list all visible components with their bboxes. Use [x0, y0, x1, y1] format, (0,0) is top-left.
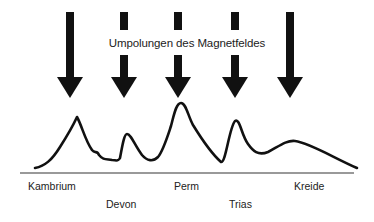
period-label-perm: Perm — [174, 180, 199, 192]
period-label-kreide: Kreide — [294, 180, 324, 192]
magnetic-reversal-diagram: Umpolungen des Magnetfeldes Kambrium Dev… — [0, 0, 374, 222]
period-label-trias: Trias — [229, 198, 252, 210]
arrow-down-icon — [277, 12, 303, 98]
period-label-kambrium: Kambrium — [28, 180, 76, 192]
arrow-down-icon — [57, 12, 83, 98]
period-label-devon: Devon — [106, 198, 136, 210]
diagram-title-text: Umpolungen des Magnetfeldes — [107, 37, 268, 49]
diagram-title: Umpolungen des Magnetfeldes — [0, 37, 374, 49]
extinction-curve — [35, 103, 357, 168]
arrow-down-icon — [222, 12, 248, 98]
arrow-down-icon — [165, 12, 191, 98]
arrow-down-icon — [111, 12, 137, 98]
